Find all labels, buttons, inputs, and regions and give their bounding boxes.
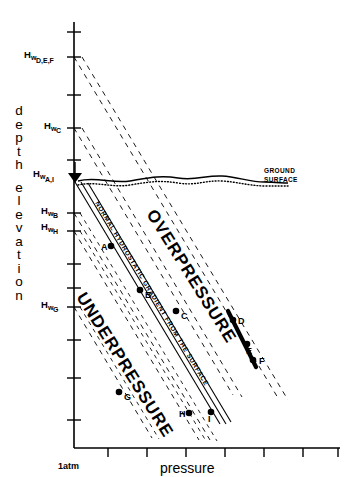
data-point-label-i: I bbox=[208, 414, 211, 424]
data-point-h bbox=[186, 410, 193, 417]
svg-text:B: B bbox=[53, 212, 58, 219]
y-axis-elevation-letter: a bbox=[6, 235, 32, 249]
y-axis-elevation-letter: t bbox=[6, 248, 32, 262]
y-axis-depth-letter: h bbox=[6, 158, 32, 172]
y-axis-title-depth: depth bbox=[6, 104, 32, 172]
hw-label-h: H w H bbox=[41, 221, 58, 235]
svg-text:G: G bbox=[53, 306, 59, 313]
y-axis-elevation-letter: o bbox=[6, 275, 32, 289]
hw-label-g: H w G bbox=[41, 299, 59, 313]
svg-text:H: H bbox=[53, 228, 58, 235]
svg-text:H: H bbox=[33, 168, 40, 179]
x-axis-origin-label: 1atm bbox=[58, 461, 79, 471]
svg-text:H: H bbox=[41, 299, 48, 310]
pressure-depth-diagram: GROUND SURFACE bbox=[0, 0, 346, 477]
y-axis-depth-letter: t bbox=[6, 145, 32, 159]
data-point-label-f: F bbox=[259, 356, 265, 366]
data-point-d bbox=[230, 317, 237, 324]
data-point-a bbox=[108, 243, 115, 250]
overpressure-label: OVERPRESSURE bbox=[143, 206, 241, 346]
data-point-c bbox=[173, 308, 180, 315]
y-axis-elevation-letter: n bbox=[6, 289, 32, 303]
hw-label-b: H w B bbox=[41, 205, 58, 219]
y-axis-depth-letter: p bbox=[6, 131, 32, 145]
y-axis-depth-letter: d bbox=[6, 104, 32, 118]
svg-text:H: H bbox=[44, 120, 51, 131]
x-axis-title: pressure bbox=[160, 460, 215, 476]
ground-surface-label-line2: SURFACE bbox=[264, 176, 298, 183]
gradient-line-hw-c-2 bbox=[82, 128, 242, 397]
y-axis-title-elevation: elevation bbox=[6, 181, 32, 303]
data-point-label-g: G bbox=[124, 392, 131, 402]
data-point-label-h: H bbox=[179, 409, 186, 419]
svg-text:H: H bbox=[24, 49, 31, 60]
data-point-g bbox=[116, 389, 123, 396]
water-table-triangle-icon bbox=[68, 173, 82, 183]
axes-group bbox=[67, 22, 340, 457]
svg-text:C: C bbox=[56, 127, 61, 134]
y-axis-elevation-letter: e bbox=[6, 208, 32, 222]
data-point-label-d: D bbox=[238, 316, 245, 326]
svg-text:H: H bbox=[41, 205, 48, 216]
data-point-label-b: B bbox=[145, 290, 152, 300]
y-axis-elevation-letter: i bbox=[6, 262, 32, 276]
y-axis-elevation-letter: e bbox=[6, 181, 32, 195]
hw-label-c: H w C bbox=[44, 120, 61, 134]
y-axis-elevation-letter: v bbox=[6, 221, 32, 235]
data-point-f bbox=[250, 357, 257, 364]
y-axis-depth-letter: e bbox=[6, 118, 32, 132]
svg-text:D,E,F: D,E,F bbox=[36, 57, 55, 65]
ground-surface-label-line1: GROUND bbox=[264, 167, 295, 174]
ground-surface-line bbox=[78, 176, 288, 183]
data-point-label-c: C bbox=[181, 311, 188, 321]
svg-text:A,I: A,I bbox=[45, 176, 54, 184]
data-point-label-a: A bbox=[101, 242, 108, 252]
hw-label-ai: H w A,I bbox=[33, 168, 54, 184]
y-axis-title: depth elevation bbox=[6, 104, 32, 302]
data-point-label-e: E bbox=[246, 346, 252, 356]
ground-surface-group: GROUND SURFACE bbox=[78, 167, 298, 186]
data-point-b bbox=[137, 287, 144, 294]
svg-text:H: H bbox=[41, 221, 48, 232]
x-axis-ticks bbox=[108, 448, 338, 457]
y-axis-elevation-letter: l bbox=[6, 194, 32, 208]
hw-label-def: H w D,E,F bbox=[24, 49, 55, 65]
